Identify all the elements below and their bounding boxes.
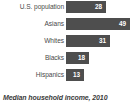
bar-value-hispanics: 13 xyxy=(73,69,84,81)
bar-track: 31 xyxy=(66,35,135,47)
bar-row: Asians 49 xyxy=(0,18,135,30)
chart-plot-area: U.S. population 28 Asians 49 Whites 31 xyxy=(0,1,135,89)
bar-value-whites: 31 xyxy=(99,35,110,47)
category-label-whites: Whites xyxy=(0,35,66,47)
bar-row: Hispanics 13 xyxy=(0,69,135,81)
chart-caption: Median household income, 2010 xyxy=(3,93,107,102)
bar-value-blacks: 18 xyxy=(78,52,89,64)
bar-hispanics: 13 xyxy=(66,69,84,81)
bar-asians: 49 xyxy=(66,18,130,30)
category-label-us-population: U.S. population xyxy=(0,1,66,13)
bar-value-us-population: 28 xyxy=(95,1,106,13)
bar-row: Whites 31 xyxy=(0,35,135,47)
bar-track: 18 xyxy=(66,52,135,64)
bar-row: U.S. population 28 xyxy=(0,1,135,13)
bar-track: 28 xyxy=(66,1,135,13)
bar-track: 13 xyxy=(66,69,135,81)
bar-track: 49 xyxy=(66,18,135,30)
category-label-hispanics: Hispanics xyxy=(0,69,66,81)
bar-whites: 31 xyxy=(66,35,110,47)
category-label-blacks: Blacks xyxy=(0,52,66,64)
category-label-asians: Asians xyxy=(0,18,66,30)
bar-chart-figure: U.S. population 28 Asians 49 Whites 31 xyxy=(0,0,135,107)
bar-blacks: 18 xyxy=(66,52,89,64)
bar-value-asians: 49 xyxy=(119,18,130,30)
bar-row: Blacks 18 xyxy=(0,52,135,64)
bar-us-population: 28 xyxy=(66,1,106,13)
